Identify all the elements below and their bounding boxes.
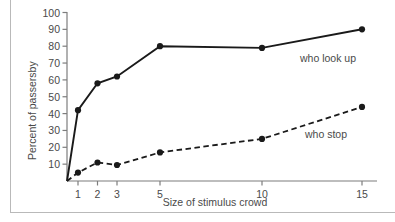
y-axis-ticks (63, 13, 68, 165)
data-series-layer (67, 26, 365, 181)
data-point (94, 159, 100, 165)
data-point (114, 73, 120, 79)
data-point (114, 162, 120, 168)
figure: 102030405060708090100 12351015 Percent o… (0, 0, 395, 222)
y-axis-tick-label: 100 (32, 7, 60, 19)
data-point (259, 45, 265, 51)
series-line-who-stop (67, 107, 362, 181)
data-point (75, 107, 81, 113)
data-point (359, 104, 365, 110)
series-label-who-stop: who stop (305, 128, 347, 140)
data-point (157, 43, 163, 49)
data-point (359, 26, 365, 32)
y-axis-tick-label: 80 (32, 40, 60, 52)
data-point (94, 80, 100, 86)
x-axis-ticks (78, 181, 362, 186)
data-point (259, 136, 265, 142)
x-axis-tick-label: 1 (75, 188, 81, 200)
x-axis-tick-label: 2 (95, 188, 101, 200)
x-axis-tick-label: 3 (114, 188, 120, 200)
data-point (75, 170, 81, 176)
series-label-who-look-up: who look up (300, 52, 356, 64)
x-axis-tick-label: 15 (356, 188, 368, 200)
y-axis-title: Percent of passersby (26, 61, 38, 160)
y-axis-tick-label: 90 (32, 23, 60, 35)
data-point (157, 149, 163, 155)
x-axis-title: Size of stimulus crowd (163, 196, 267, 208)
